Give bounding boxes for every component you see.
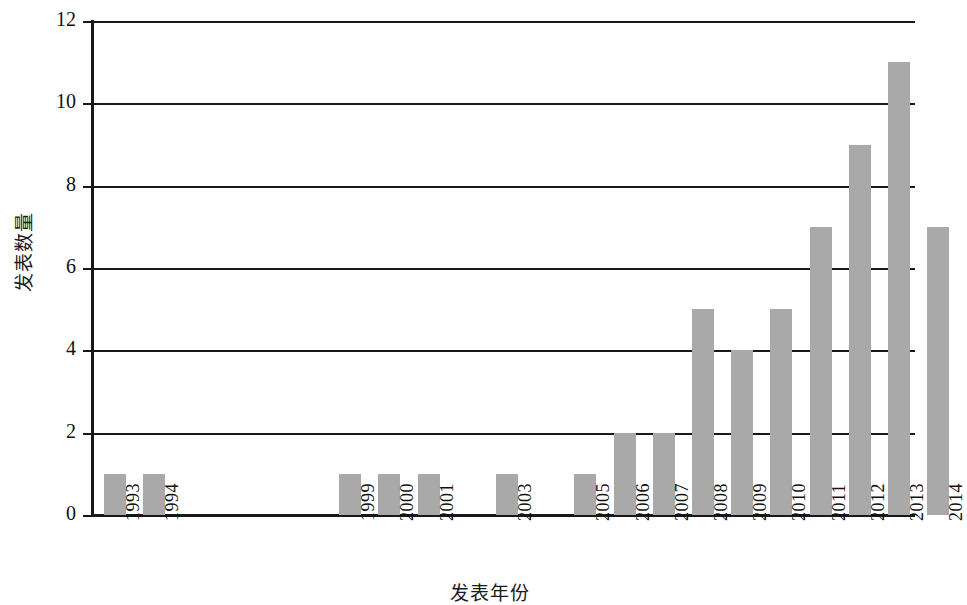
x-tick-label-2006: 2006 — [633, 483, 654, 521]
x-tick-label-2014: 2014 — [946, 483, 967, 521]
x-tick-label-2011: 2011 — [829, 484, 850, 521]
x-tick-label-1999: 1999 — [358, 483, 379, 521]
y-tick-mark-2 — [83, 433, 92, 435]
y-tick-mark-4 — [83, 350, 92, 352]
y-axis-title: 发表数量 — [9, 192, 36, 312]
x-tick-label-2005: 2005 — [593, 483, 614, 521]
x-tick-label-1993: 1993 — [123, 483, 144, 521]
x-tick-label-2003: 2003 — [515, 483, 536, 521]
bar-2012 — [849, 145, 871, 516]
y-tick-mark-6 — [83, 268, 92, 270]
x-tick-label-2009: 2009 — [750, 483, 771, 521]
x-tick-label-2010: 2010 — [789, 483, 810, 521]
x-tick-label-1994: 1994 — [162, 483, 183, 521]
bar-series — [92, 21, 922, 515]
y-tick-mark-8 — [83, 186, 92, 188]
x-axis-title: 发表年份 — [0, 578, 967, 605]
y-tick-label-2: 2 — [18, 420, 76, 443]
y-tick-mark-0 — [83, 515, 92, 517]
y-tick-label-12: 12 — [18, 8, 76, 31]
y-tick-label-4: 4 — [18, 337, 76, 360]
y-tick-label-0: 0 — [18, 502, 76, 525]
x-tick-label-2000: 2000 — [397, 483, 418, 521]
bar-2011 — [810, 227, 832, 515]
y-tick-mark-10 — [83, 103, 92, 105]
x-tick-label-2008: 2008 — [711, 483, 732, 521]
x-tick-label-2001: 2001 — [437, 483, 458, 521]
bar-2014 — [927, 227, 949, 515]
y-tick-mark-12 — [83, 21, 92, 23]
y-tick-label-10: 10 — [18, 90, 76, 113]
x-tick-label-2013: 2013 — [907, 483, 928, 521]
x-tick-label-2007: 2007 — [672, 483, 693, 521]
x-tick-label-2012: 2012 — [868, 483, 889, 521]
bar-2013 — [888, 62, 910, 515]
